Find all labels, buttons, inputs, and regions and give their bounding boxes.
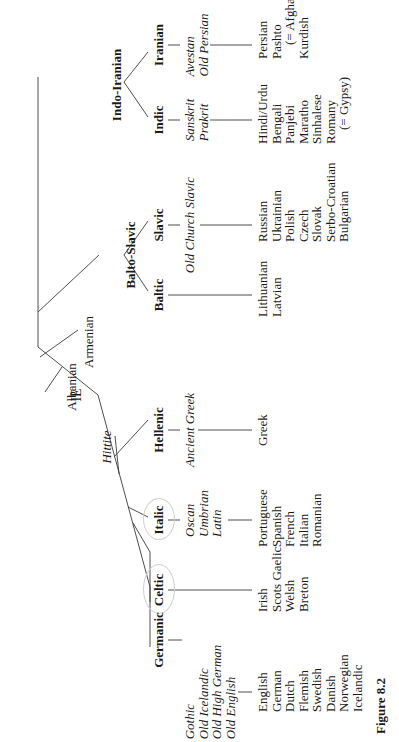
branch-iranian: Iranian xyxy=(152,24,166,66)
list-item: Polish xyxy=(283,163,297,242)
list-item: Portuguese xyxy=(256,489,270,547)
list-item: Oscan xyxy=(183,490,197,537)
hellenic-ancient-list: Ancient Greek xyxy=(183,393,197,467)
list-item: Bengali xyxy=(270,77,284,144)
list-item: Sanskrit xyxy=(183,99,197,142)
list-item: Lithuanian xyxy=(256,261,270,317)
list-item: Kurdish xyxy=(297,0,311,59)
list-item: (= Afghani) xyxy=(283,0,297,59)
list-item: Breton xyxy=(297,547,311,612)
list-item: Old Church Slavic xyxy=(183,177,197,273)
list-item: Dutch xyxy=(283,654,297,712)
italic-modern-list: Portuguese Spanish French Italian Romani… xyxy=(256,489,324,547)
list-item: Panjebi xyxy=(283,77,297,144)
italic-ancient-list: Oscan Umbrian Latin xyxy=(183,490,224,537)
branch-slavic: Slavic xyxy=(152,208,166,241)
list-item: Danish xyxy=(324,654,338,712)
list-item: Old High German xyxy=(210,645,224,740)
hellenic-modern-list: Greek xyxy=(256,414,270,446)
list-item: Latvian xyxy=(270,261,284,317)
germanic-modern-list: English German Dutch Flemish Swedish Dan… xyxy=(256,654,364,712)
list-item: Welsh xyxy=(283,547,297,612)
list-item: Prakrit xyxy=(197,99,211,142)
list-item: Romany xyxy=(324,77,338,144)
branch-hellenic: Hellenic xyxy=(152,407,166,453)
list-item: Spanish xyxy=(270,489,284,547)
list-item: Icelandic xyxy=(351,654,365,712)
list-item: Ukrainian xyxy=(270,163,284,242)
list-item: Umbrian xyxy=(197,490,211,537)
branch-celtic: Celtic xyxy=(152,574,166,606)
germanic-ancient-list: Gothic Old Icelandic Old High German Old… xyxy=(183,645,237,740)
list-item: Old Icelandic xyxy=(197,645,211,740)
ie-family-tree-diagram: IE Hittite Albanian Armenian Balto-Slavi… xyxy=(0,0,399,742)
isolate-hittite: Hittite xyxy=(100,430,114,463)
branch-italic: Italic xyxy=(152,506,166,535)
list-item: Ancient Greek xyxy=(183,393,197,467)
slavic-ancient-list: Old Church Slavic xyxy=(183,177,197,273)
list-item: English xyxy=(256,654,270,712)
list-item: Irish xyxy=(256,547,270,612)
celtic-modern-list: Irish Scots Gaelic Welsh Breton xyxy=(256,547,310,612)
list-item: Gothic xyxy=(183,645,197,740)
indic-ancient-list: Sanskrit Prakrit xyxy=(183,99,210,142)
branch-baltic: Baltic xyxy=(152,279,166,312)
list-item: Old English xyxy=(224,645,238,740)
list-item: Sinhalese xyxy=(310,77,324,144)
list-item: Maratho xyxy=(297,77,311,144)
list-item: Hindi/Urdu xyxy=(256,77,270,144)
figure-caption: Figure 8.2 xyxy=(374,678,388,734)
isolate-albanian: Albanian xyxy=(65,363,79,411)
list-item: Norwegian xyxy=(337,654,351,712)
list-item: Serbo-Croatian xyxy=(324,163,338,242)
list-item: (= Gypsy) xyxy=(337,77,351,144)
list-item: Greek xyxy=(256,414,270,446)
list-item: Italian xyxy=(297,489,311,547)
list-item: French xyxy=(283,489,297,547)
list-item: Russian xyxy=(256,163,270,242)
list-item: Romanian xyxy=(310,489,324,547)
indic-modern-list: Hindi/Urdu Bengali Panjebi Maratho Sinha… xyxy=(256,77,351,144)
list-item: Scots Gaelic xyxy=(270,547,284,612)
list-item: Swedish xyxy=(310,654,324,712)
list-item: Old Persian xyxy=(197,13,211,76)
list-item: Flemish xyxy=(297,654,311,712)
iranian-ancient-list: Avestan Old Persian xyxy=(183,13,210,76)
branch-indic: Indic xyxy=(152,106,166,135)
iranian-modern-list: Persian Pashto (= Afghani) Kurdish xyxy=(256,0,310,59)
isolate-armenian: Armenian xyxy=(82,316,96,368)
list-item: Bulgarian xyxy=(337,163,351,242)
list-item: German xyxy=(270,654,284,712)
node-indo-iranian: Indo-Iranian xyxy=(110,49,124,121)
slavic-modern-list: Russian Ukrainian Polish Czech Slovak Se… xyxy=(256,163,351,242)
list-item: Avestan xyxy=(183,13,197,76)
list-item: Latin xyxy=(210,490,224,537)
baltic-modern-list: Lithuanian Latvian xyxy=(256,261,283,317)
list-item: Slovak xyxy=(310,163,324,242)
list-item: Pashto xyxy=(270,0,284,59)
node-balto-slavic: Balto-Slavic xyxy=(124,221,138,288)
list-item: Persian xyxy=(256,0,270,59)
list-item: Czech xyxy=(297,163,311,242)
branch-germanic: Germanic xyxy=(152,612,166,668)
